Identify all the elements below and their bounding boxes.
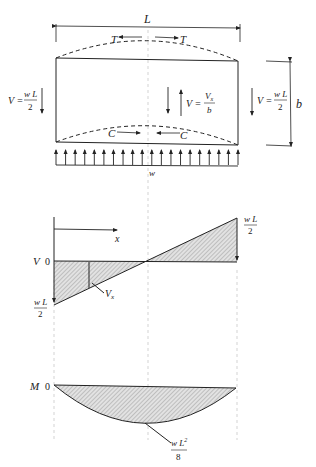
shear-section-label: Vx [105, 288, 115, 301]
moment-max-num: w L2 [171, 437, 187, 448]
right-shear-num: w L [274, 89, 287, 99]
compression-label-right: C [180, 129, 188, 141]
moment-axis-label: M [29, 380, 40, 392]
depth-label: b [296, 97, 302, 111]
shear-bottom-num: w L [34, 297, 47, 307]
left-shear-num: w L [24, 89, 37, 99]
shear-top-den: 2 [248, 226, 253, 236]
shear-axis-label: V [33, 255, 41, 267]
x-label: x [114, 233, 120, 244]
compression-arrow-left [117, 132, 140, 133]
moment-max-den: 8 [176, 452, 181, 462]
right-shear-den: 2 [278, 102, 283, 112]
x-direction-arrow [54, 229, 117, 230]
compression-label-left: C [108, 127, 116, 139]
tension-arrow-right [155, 37, 178, 38]
left-shear-den: 2 [28, 102, 33, 112]
span-label: L [143, 12, 151, 26]
tension-label-left: T [111, 33, 118, 45]
shear-top-num: w L [244, 214, 257, 224]
shear-bottom-den: 2 [38, 309, 43, 319]
left-shear-lhs: V = [8, 95, 23, 106]
moment-zero-label: 0 [45, 381, 50, 392]
tension-label-right: T [180, 33, 187, 45]
shear-zero-label: 0 [45, 256, 50, 267]
center-shear-num: Vx [205, 91, 214, 102]
distributed-load [56, 150, 238, 166]
center-shear-den: b [207, 105, 212, 115]
load-label: w [149, 168, 155, 178]
beam-diagram: L T T C C V = w L 2 V = Vx b V = w L 2 b… [0, 0, 316, 467]
center-shear-lhs: V = [186, 98, 201, 109]
right-shear-lhs: V = [257, 95, 272, 106]
